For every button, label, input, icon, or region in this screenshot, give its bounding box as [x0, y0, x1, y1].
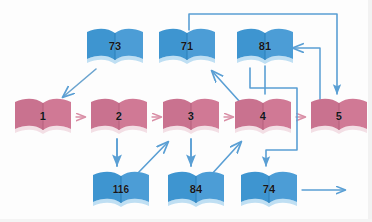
- node-label: 1: [12, 95, 74, 137]
- node-book-4[interactable]: 4: [232, 95, 294, 137]
- node-label: 5: [308, 95, 370, 137]
- node-book-5[interactable]: 5: [308, 95, 370, 137]
- node-label: 71: [156, 25, 218, 67]
- node-label: 84: [165, 168, 227, 210]
- node-label: 2: [88, 95, 150, 137]
- node-book-116[interactable]: 116: [90, 168, 152, 210]
- node-book-3[interactable]: 3: [160, 95, 222, 137]
- diagram-canvas: 1 2 3 4: [0, 0, 372, 222]
- node-label: 81: [234, 25, 296, 67]
- node-book-84[interactable]: 84: [165, 168, 227, 210]
- bottom-margin-strip: [0, 219, 372, 222]
- node-book-74[interactable]: 74: [238, 168, 300, 210]
- node-book-1[interactable]: 1: [12, 95, 74, 137]
- edge-5-to-81: [293, 48, 320, 101]
- node-book-2[interactable]: 2: [88, 95, 150, 137]
- node-label: 116: [90, 168, 152, 210]
- node-label: 73: [84, 25, 146, 67]
- node-book-71[interactable]: 71: [156, 25, 218, 67]
- node-label: 3: [160, 95, 222, 137]
- node-label: 74: [238, 168, 300, 210]
- node-book-81[interactable]: 81: [234, 25, 296, 67]
- edge-73-to-1: [63, 69, 96, 97]
- top-margin-strip: [0, 0, 372, 6]
- node-label: 4: [232, 95, 294, 137]
- node-book-73[interactable]: 73: [84, 25, 146, 67]
